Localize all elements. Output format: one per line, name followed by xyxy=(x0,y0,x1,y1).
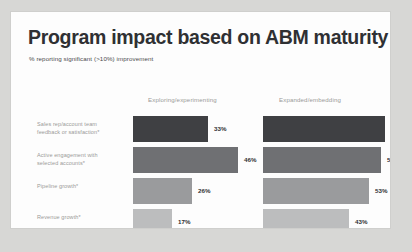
bar xyxy=(133,178,192,204)
bar-row: 17% xyxy=(133,209,238,229)
bar-row: 53% xyxy=(263,178,385,204)
bar-row: 26% xyxy=(133,178,238,204)
bar xyxy=(263,147,381,173)
bar-value-label: 43% xyxy=(355,218,367,225)
bar-value-label: 26% xyxy=(198,187,210,194)
column-header-exploring: Exploring/experimenting xyxy=(148,96,217,103)
bar xyxy=(133,209,172,229)
bar-row: 46% xyxy=(133,147,238,173)
bar xyxy=(133,147,238,173)
bar-row: 61% xyxy=(263,116,385,142)
row-label: Revenue growth* xyxy=(37,213,119,221)
bar-row: 33% xyxy=(133,116,238,142)
bar-value-label: 53% xyxy=(375,187,387,194)
bar-row: 59% xyxy=(263,147,385,173)
page-title: Program impact based on ABM maturity xyxy=(28,26,388,49)
slide-page: Program impact based on ABM maturity % r… xyxy=(0,0,412,252)
bar-value-label: 46% xyxy=(244,156,256,163)
bar xyxy=(133,116,208,142)
bar-value-label: 17% xyxy=(178,218,190,225)
bar-row: 43% xyxy=(263,209,385,229)
bar-value-label: 33% xyxy=(214,125,226,132)
bar-value-label: 59% xyxy=(387,156,391,163)
row-label: Pipeline growth* xyxy=(37,182,119,190)
bar xyxy=(263,178,369,204)
row-label: Active engagement with selected accounts… xyxy=(37,151,119,167)
bar xyxy=(263,116,385,142)
chart-subtitle: % reporting significant (>10%) improveme… xyxy=(29,55,153,62)
column-header-expanded: Expanded/embedding xyxy=(279,96,341,103)
row-label: Sales rep/account team feedback or satis… xyxy=(37,120,119,136)
bar xyxy=(263,209,349,229)
chart-card: Program impact based on ABM maturity % r… xyxy=(10,11,391,229)
